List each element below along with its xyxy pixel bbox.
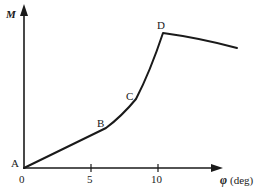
point-label-b: B	[97, 117, 104, 129]
moment-angle-chart: M 0 5 10 φ (deg) A B C D	[0, 0, 263, 192]
x-tick-label-5: 5	[87, 173, 93, 185]
y-axis-label: M	[5, 8, 17, 20]
x-tick-label-0: 0	[19, 173, 25, 185]
point-label-a: A	[11, 157, 19, 169]
point-label-c: C	[126, 90, 133, 102]
x-axis-label-symbol: φ	[220, 173, 227, 187]
y-axis-arrow-icon	[20, 4, 28, 16]
x-tick-label-10: 10	[151, 173, 163, 185]
x-axis-arrow-icon	[211, 164, 223, 172]
x-axis-label-unit: (deg)	[230, 174, 254, 187]
point-label-d: D	[157, 19, 165, 31]
